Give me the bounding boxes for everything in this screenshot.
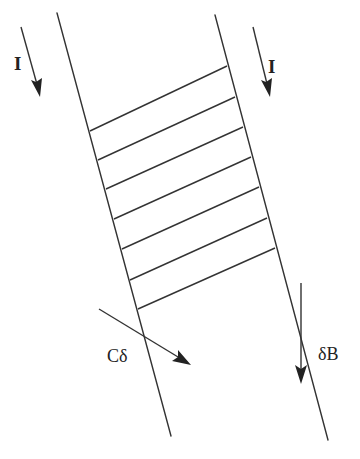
current-label-right: I bbox=[268, 56, 275, 77]
rung bbox=[90, 66, 227, 131]
arrow-shaft-icon bbox=[21, 27, 38, 88]
current-arrow-left bbox=[21, 27, 42, 97]
rung bbox=[106, 127, 243, 189]
rungs bbox=[90, 66, 275, 309]
arrow-shaft-icon bbox=[253, 27, 268, 88]
delta-b-label: δB bbox=[318, 344, 339, 364]
current-label-left: I bbox=[14, 53, 21, 74]
rung bbox=[130, 218, 267, 280]
rung bbox=[114, 157, 251, 219]
rung bbox=[122, 187, 259, 249]
delta-b-arrow bbox=[295, 283, 307, 384]
arrowhead-icon bbox=[172, 350, 191, 365]
left-rail bbox=[57, 13, 171, 436]
rung bbox=[138, 248, 275, 309]
ladder-diagram: I I Cδ δB bbox=[0, 0, 360, 459]
rung bbox=[98, 97, 235, 160]
c-delta-label: Cδ bbox=[107, 346, 128, 366]
